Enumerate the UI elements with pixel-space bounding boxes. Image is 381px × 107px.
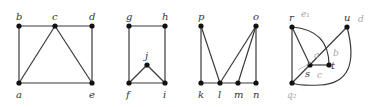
label-e: e (89, 89, 95, 100)
graph-2: g h j f i (125, 11, 168, 100)
edge-r-t-arc (292, 27, 329, 65)
node-h (162, 23, 167, 28)
node-b (16, 23, 21, 28)
label-f: f (125, 89, 132, 100)
label-b: b (16, 11, 22, 22)
label-r: r (289, 12, 295, 23)
graph-3: p o k l m n (198, 11, 259, 100)
node-d (89, 23, 94, 28)
label-l: l (218, 89, 221, 100)
node-p (198, 23, 203, 28)
graph-figures: b c d a e g h j f i p (0, 0, 381, 107)
label-u: u (344, 12, 350, 23)
node-g (126, 23, 131, 28)
edge-r-s (292, 27, 310, 65)
label-k: k (198, 89, 204, 100)
node-o (253, 23, 258, 28)
label-d: d (89, 11, 95, 22)
edge-p-l (201, 26, 220, 83)
label-c: c (52, 11, 58, 22)
node-a (16, 80, 21, 85)
label-j: j (143, 50, 148, 61)
label-m: m (234, 89, 243, 100)
handwritten-e1: e₁ (301, 9, 310, 19)
node-f (126, 80, 131, 85)
node-q (289, 80, 294, 85)
label-i: i (163, 89, 166, 100)
graph-1: b c d a e (16, 11, 95, 100)
edge-j-i (147, 65, 165, 83)
edge-o-l (220, 26, 256, 83)
label-n: n (253, 89, 259, 100)
label-g: g (126, 11, 132, 22)
node-u (344, 24, 349, 29)
graph-4: r u s t e₁ a b c q₂ d (287, 9, 364, 100)
label-o: o (253, 11, 259, 22)
label-t: t (331, 60, 336, 71)
label-a: a (16, 89, 22, 100)
node-i (162, 80, 167, 85)
handwritten-c: c (317, 70, 322, 80)
handwritten-d: d (358, 14, 364, 24)
edge-o-m (238, 26, 256, 83)
edge-c-e (55, 26, 92, 83)
handwritten-b: b (333, 48, 339, 58)
node-c (52, 23, 57, 28)
edge-c-a (19, 26, 55, 83)
node-n (253, 80, 258, 85)
node-j (144, 62, 149, 67)
label-s: s (305, 68, 310, 79)
node-e (89, 80, 94, 85)
handwritten-a: a (314, 50, 319, 60)
node-k (198, 80, 203, 85)
handwritten-q2: q₂ (287, 90, 297, 100)
edge-f-j (129, 65, 147, 83)
node-r (289, 24, 294, 29)
label-p: p (198, 11, 205, 22)
label-h: h (162, 11, 168, 22)
node-l (217, 80, 222, 85)
node-m (235, 80, 240, 85)
